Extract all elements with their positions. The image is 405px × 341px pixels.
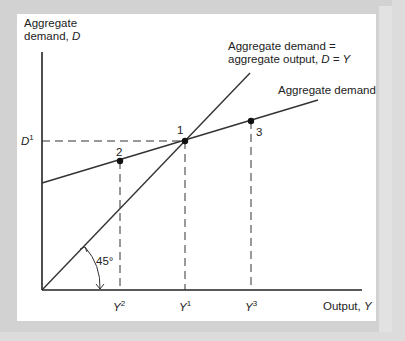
line-45-label: Aggregate demand = aggregate output, D =… [228, 40, 350, 66]
line-45-eq: D = Y [321, 53, 350, 65]
y-axis-label-line1: Aggregate [24, 17, 77, 29]
x-tick-y1-base: Y [179, 301, 187, 313]
x-tick-y2: Y2 [113, 301, 125, 314]
point-3-label: 3 [256, 126, 262, 139]
x-axis-label: Output, Y [323, 300, 372, 313]
angle-label: 45° [96, 255, 113, 268]
ad-line-label: Aggregate demand [278, 84, 376, 97]
point-1-label: 1 [177, 124, 183, 137]
x-tick-y3: Y3 [245, 301, 257, 314]
x-tick-y3-sup: 3 [253, 299, 257, 308]
x-axis-label-text: Output, [323, 300, 364, 312]
x-tick-y2-base: Y [113, 301, 121, 313]
x-tick-y3-base: Y [245, 301, 253, 313]
y-axis-label-line2: demand, [24, 30, 72, 42]
point-1 [182, 138, 188, 144]
point-2-label: 2 [116, 146, 122, 159]
x-axis-var: Y [364, 300, 372, 312]
x-tick-y1: Y1 [179, 301, 191, 314]
d1-sup: 1 [29, 133, 33, 142]
line-45-label-line2: aggregate output, [228, 53, 321, 65]
line-45-label-line1: Aggregate demand = [228, 40, 336, 52]
point-3 [248, 118, 254, 124]
x-tick-y1-sup: 1 [187, 299, 191, 308]
x-tick-y2-sup: 2 [121, 299, 125, 308]
y-axis-var: D [72, 30, 80, 42]
y-axis-label: Aggregate demand, D [24, 17, 80, 43]
d1-label: D1 [21, 135, 34, 148]
line-45-degree [42, 73, 250, 290]
angle-arc [85, 247, 100, 289]
